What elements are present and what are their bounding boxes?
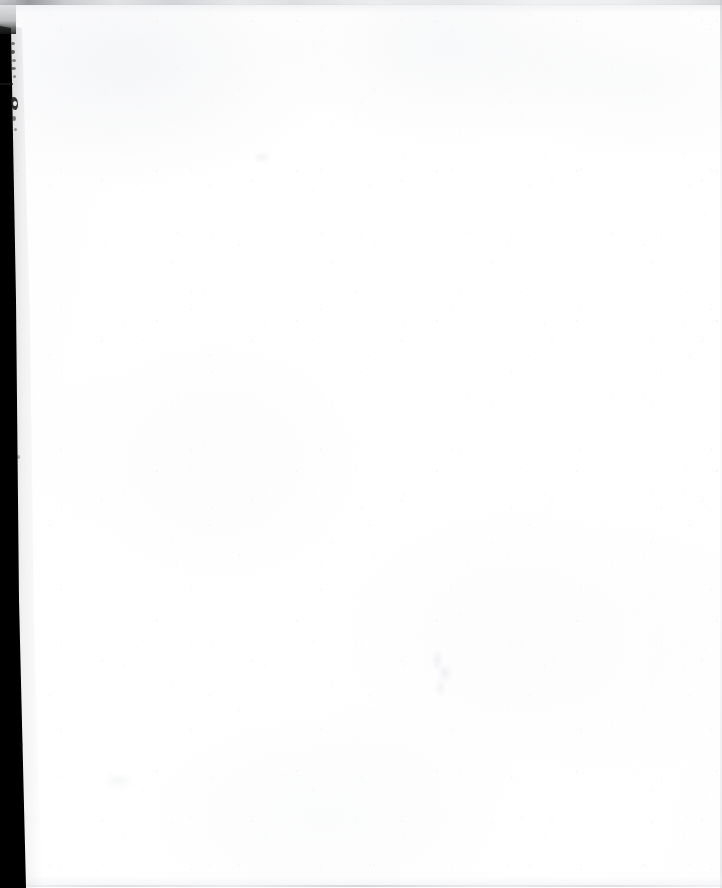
- centre-smudge: [424, 646, 458, 698]
- bottom-edge-hairline: [24, 885, 722, 887]
- left-margin-speck: [17, 455, 20, 459]
- left-margin-speck: [19, 742, 23, 747]
- left-margin-ink-blot-highlight: [13, 101, 17, 106]
- top-edge-band: [0, 0, 722, 5]
- left-margin-speck: [12, 59, 16, 62]
- lower-left-smudge: [96, 768, 142, 794]
- left-margin-speck: [13, 75, 16, 78]
- bottom-edge-soft-shadow: [22, 871, 722, 885]
- left-margin-speck: [12, 116, 16, 121]
- left-margin-speck: [11, 67, 16, 70]
- top-edge-soft-shadow: [0, 4, 722, 20]
- gutter-top-fade: [0, 0, 16, 34]
- paper-grain-texture: [0, 0, 722, 888]
- upper-smudge: [248, 148, 276, 166]
- scanned-page: Blank scanned page with dark left gutter…: [0, 0, 722, 888]
- left-margin-speck: [11, 42, 15, 45]
- left-margin-tick: [0, 83, 13, 85]
- left-margin-speck: [14, 128, 17, 131]
